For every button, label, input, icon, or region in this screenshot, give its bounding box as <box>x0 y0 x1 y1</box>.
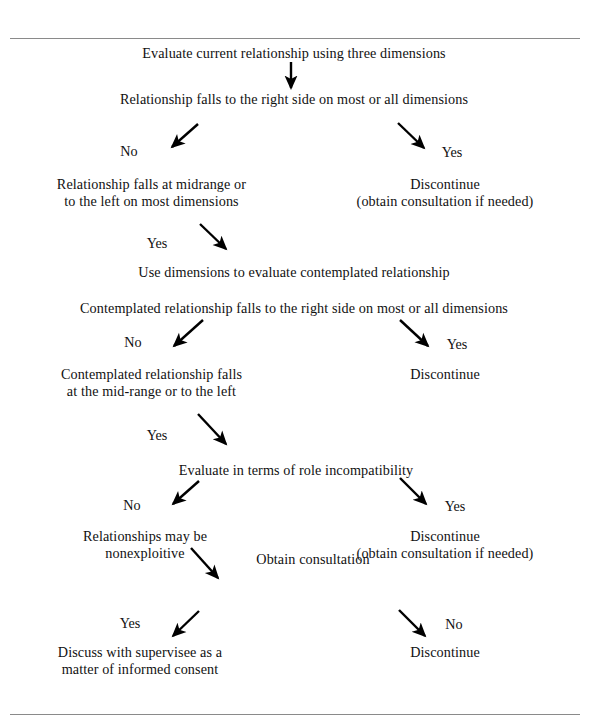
edge-label-yes-2: Yes <box>132 235 182 251</box>
node-discuss-with-supervisee: Discuss with supervisee as a matter of i… <box>10 644 270 678</box>
arrow-yes-7 <box>173 611 199 636</box>
node-use-dimensions-contemplated: Use dimensions to evaluate contemplated … <box>79 264 509 281</box>
arrow-yes-3 <box>400 320 428 346</box>
node-obtain-consultation: Obtain consultation <box>218 551 408 568</box>
node-relationship-midrange-left: Relationship falls at midrange or to the… <box>14 176 289 210</box>
node-evaluate-current-relationship: Evaluate current relationship using thre… <box>64 45 524 62</box>
edge-label-no-3: No <box>107 497 157 513</box>
edge-label-yes-6: Yes <box>105 615 155 631</box>
bottom-rule <box>10 714 580 715</box>
arrow-layer <box>0 0 589 722</box>
arrow-no-4 <box>399 610 425 636</box>
top-rule <box>10 38 580 39</box>
flowchart-page: Evaluate current relationship using thre… <box>0 0 589 722</box>
node-discontinue-2: Discontinue <box>370 366 520 383</box>
node-evaluate-role-incompatibility: Evaluate in terms of role incompatibilit… <box>131 462 461 479</box>
node-relationship-right-side: Relationship falls to the right side on … <box>44 91 544 108</box>
arrow-yes-4 <box>198 414 226 444</box>
edge-label-yes-1: Yes <box>427 144 477 160</box>
arrow-no-3 <box>173 481 199 504</box>
edge-label-no-1: No <box>104 143 154 159</box>
edge-label-no-4: No <box>429 616 479 632</box>
edge-label-no-2: No <box>108 334 158 350</box>
arrow-no-1 <box>172 124 198 147</box>
arrow-yes-1 <box>398 123 424 148</box>
edge-label-yes-4: Yes <box>132 427 182 443</box>
arrow-yes-2 <box>200 224 226 249</box>
node-discontinue-3: Discontinue <box>370 644 520 661</box>
arrow-yes-5 <box>400 478 426 504</box>
node-discontinue-consult-1: Discontinue (obtain consultation if need… <box>310 176 580 210</box>
node-contemplated-right-side: Contemplated relationship falls to the r… <box>24 300 564 317</box>
edge-label-yes-5: Yes <box>430 498 480 514</box>
node-contemplated-midrange-left: Contemplated relationship falls at the m… <box>14 366 289 400</box>
arrow-no-2 <box>174 320 203 346</box>
edge-label-yes-3: Yes <box>432 336 482 352</box>
